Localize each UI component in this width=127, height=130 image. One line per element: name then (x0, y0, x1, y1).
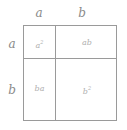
row-label-a: a (6, 38, 18, 50)
column-label-b: b (76, 7, 88, 19)
cell-ba: ba (24, 85, 55, 93)
area-grid: a2 ab ba b2 (23, 25, 117, 121)
horizontal-divider (24, 58, 116, 59)
cell-a-squared: a2 (24, 38, 55, 50)
column-label-a: a (33, 7, 45, 19)
cell-b-squared: b2 (56, 84, 118, 96)
row-label-b: b (6, 84, 18, 96)
cell-a-squared-exp: 2 (40, 39, 43, 45)
cell-b-squared-exp: 2 (88, 85, 91, 91)
cell-ab: ab (56, 39, 118, 47)
